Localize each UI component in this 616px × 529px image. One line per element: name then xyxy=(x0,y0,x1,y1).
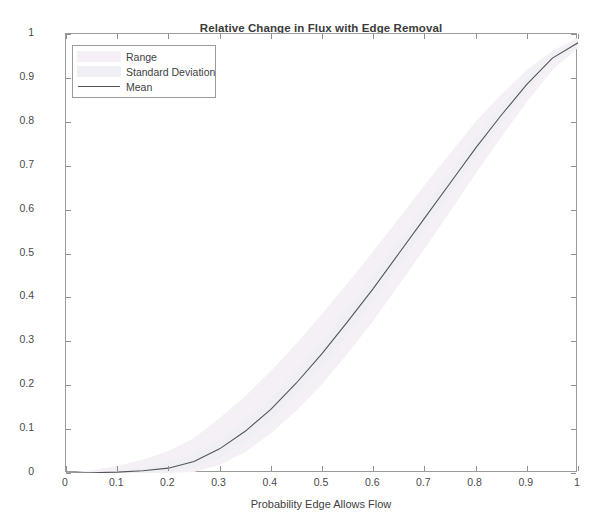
x-tick-label-6: 0.6 xyxy=(352,476,392,488)
band-range xyxy=(66,38,578,473)
x-tick-5 xyxy=(322,466,323,471)
y-tick-label-7: 0.7 xyxy=(0,158,34,170)
x-tick-label-0: 0 xyxy=(45,476,85,488)
x-tick-3 xyxy=(220,466,221,471)
legend-swatch-range xyxy=(77,51,121,62)
x-tick-4 xyxy=(271,466,272,471)
x-tick-top-3 xyxy=(220,34,221,39)
x-tick-0 xyxy=(66,466,67,471)
y-tick-right-1 xyxy=(571,429,576,430)
x-tick-top-4 xyxy=(271,34,272,39)
y-tick-right-2 xyxy=(571,385,576,386)
x-tick-label-1: 0.1 xyxy=(96,476,136,488)
figure-canvas: Relative Change in Flux with Edge Remova… xyxy=(0,0,616,529)
x-tick-label-5: 0.5 xyxy=(301,476,341,488)
x-tick-top-5 xyxy=(322,34,323,39)
y-tick-1 xyxy=(66,429,71,430)
x-tick-label-10: 1 xyxy=(557,476,597,488)
y-tick-0 xyxy=(66,473,71,474)
x-tick-top-7 xyxy=(424,34,425,39)
y-tick-label-5: 0.5 xyxy=(0,246,34,258)
y-tick-label-10: 1 xyxy=(0,26,34,38)
legend-swatch-standard-deviation xyxy=(77,66,121,77)
y-tick-label-1: 0.1 xyxy=(0,421,34,433)
x-tick-10 xyxy=(578,466,579,471)
y-tick-5 xyxy=(66,254,71,255)
y-tick-right-10 xyxy=(571,34,576,35)
y-tick-8 xyxy=(66,122,71,123)
y-tick-label-6: 0.6 xyxy=(0,202,34,214)
y-tick-label-4: 0.4 xyxy=(0,289,34,301)
x-tick-top-8 xyxy=(476,34,477,39)
y-tick-2 xyxy=(66,385,71,386)
y-tick-right-7 xyxy=(571,166,576,167)
y-tick-right-8 xyxy=(571,122,576,123)
x-tick-label-4: 0.4 xyxy=(250,476,290,488)
legend-swatch-mean xyxy=(77,81,121,92)
x-tick-top-9 xyxy=(527,34,528,39)
y-tick-right-5 xyxy=(571,254,576,255)
x-tick-label-9: 0.9 xyxy=(506,476,546,488)
y-tick-9 xyxy=(66,78,71,79)
x-tick-8 xyxy=(476,466,477,471)
x-tick-9 xyxy=(527,466,528,471)
x-tick-top-0 xyxy=(66,34,67,39)
x-tick-label-8: 0.8 xyxy=(455,476,495,488)
legend-label-standard-deviation: Standard Deviation xyxy=(126,66,215,78)
y-tick-right-4 xyxy=(571,297,576,298)
x-tick-label-7: 0.7 xyxy=(403,476,443,488)
y-tick-4 xyxy=(66,297,71,298)
y-tick-right-0 xyxy=(571,473,576,474)
legend-item-standard-deviation: Standard Deviation xyxy=(73,64,215,79)
x-tick-top-1 xyxy=(117,34,118,39)
legend-label-range: Range xyxy=(126,51,157,63)
y-tick-7 xyxy=(66,166,71,167)
y-tick-label-3: 0.3 xyxy=(0,333,34,345)
x-axis-title: Probability Edge Allows Flow xyxy=(65,498,577,510)
legend-label-mean: Mean xyxy=(126,81,152,93)
plot-area xyxy=(65,33,577,472)
x-tick-label-3: 0.3 xyxy=(199,476,239,488)
x-tick-1 xyxy=(117,466,118,471)
y-tick-label-0: 0 xyxy=(0,465,34,477)
x-tick-7 xyxy=(424,466,425,471)
x-tick-top-6 xyxy=(373,34,374,39)
y-tick-6 xyxy=(66,210,71,211)
y-tick-right-6 xyxy=(571,210,576,211)
x-tick-2 xyxy=(168,466,169,471)
legend-item-range: Range xyxy=(73,49,215,64)
y-tick-label-9: 0.9 xyxy=(0,70,34,82)
y-tick-right-9 xyxy=(571,78,576,79)
x-tick-label-2: 0.2 xyxy=(147,476,187,488)
plot-svg xyxy=(66,34,578,473)
legend-item-mean: Mean xyxy=(73,79,215,94)
x-tick-top-10 xyxy=(578,34,579,39)
y-tick-label-2: 0.2 xyxy=(0,377,34,389)
x-tick-top-2 xyxy=(168,34,169,39)
y-tick-3 xyxy=(66,341,71,342)
legend-box: Range Standard Deviation Mean xyxy=(72,45,216,98)
x-tick-6 xyxy=(373,466,374,471)
y-tick-right-3 xyxy=(571,341,576,342)
y-tick-label-8: 0.8 xyxy=(0,114,34,126)
